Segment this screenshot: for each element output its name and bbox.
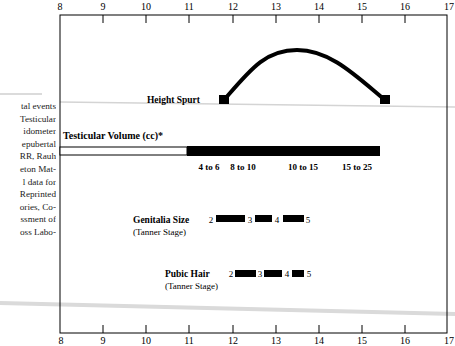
tick-label: 8	[59, 335, 64, 346]
tick-label: 16	[400, 1, 410, 12]
pubic-hair-label: Pubic Hair	[165, 269, 210, 279]
tick-label: 9	[101, 335, 106, 346]
tick-label: 11	[184, 335, 194, 346]
stage-label: 2	[229, 269, 234, 279]
tick-label: 14	[314, 1, 324, 12]
pubertal-segment	[187, 146, 380, 156]
height-spurt-label: Height Spurt	[147, 95, 201, 105]
tick-label: 13	[271, 335, 281, 346]
prepubertal-segment	[60, 147, 187, 155]
tick-label: 15	[357, 1, 367, 12]
page-shadow	[60, 102, 455, 107]
stage-label: 5	[307, 269, 312, 279]
top-axis: 8 9 10 11 12 13 14 15 16 17	[58, 1, 455, 23]
tick-label: 10	[141, 1, 151, 12]
height-spurt-curve	[224, 50, 385, 100]
stage-bar	[283, 215, 304, 222]
tick-label: 10	[141, 335, 151, 346]
axes-frame	[60, 15, 447, 333]
stage-label: 3	[258, 269, 263, 279]
stage-bar	[216, 215, 245, 222]
tv-label: 8 to 10	[230, 162, 256, 172]
stage-label: 4	[275, 215, 280, 225]
height-spurt-end-marker	[380, 95, 390, 104]
tick-label: 17	[444, 1, 454, 12]
testicular-volume-series: Testicular Volume (cc)* 4 to 6 8 to 10 1…	[60, 130, 380, 172]
stage-bar	[264, 270, 282, 277]
tick-label: 14	[314, 335, 324, 346]
tick-label: 9	[101, 1, 106, 12]
tv-label: 15 to 25	[342, 162, 372, 172]
tick-label: 13	[271, 1, 281, 12]
page-shadow	[0, 303, 455, 314]
stage-label: 3	[248, 215, 253, 225]
stage-bar	[235, 270, 256, 277]
tick-label: 12	[228, 1, 238, 12]
tv-label: 4 to 6	[199, 162, 220, 172]
height-spurt-start-marker	[219, 95, 229, 104]
tick-label: 11	[184, 1, 194, 12]
stage-label: 2	[209, 215, 214, 225]
testicular-volume-label: Testicular Volume (cc)*	[63, 130, 163, 142]
tick-label: 8	[58, 1, 63, 12]
puberty-timeline-chart: 8 9 10 11 12 13 14 15 16 17 8 9 10 11 12…	[0, 0, 455, 346]
tick-label: 17	[444, 335, 454, 346]
tick-label: 15	[357, 335, 367, 346]
tv-label: 10 to 15	[288, 162, 318, 172]
pubic-hair-series: Pubic Hair (Tanner Stage) 2 3 4 5	[165, 269, 312, 291]
stage-label: 5	[306, 215, 311, 225]
tick-label: 12	[228, 335, 238, 346]
bottom-axis: 8 9 10 11 12 13 14 15 16 17	[59, 325, 455, 346]
height-spurt-series: Height Spurt	[147, 50, 390, 105]
genitalia-size-series: Genitalia Size (Tanner Stage) 2 3 4 5	[133, 215, 311, 237]
stage-bar	[255, 215, 272, 222]
stage-bar	[292, 270, 304, 277]
genitalia-label: Genitalia Size	[133, 215, 189, 225]
tick-label: 16	[400, 335, 410, 346]
pubic-hair-sublabel: (Tanner Stage)	[165, 281, 218, 291]
stage-label: 4	[285, 269, 290, 279]
genitalia-sublabel: (Tanner Stage)	[133, 227, 186, 237]
